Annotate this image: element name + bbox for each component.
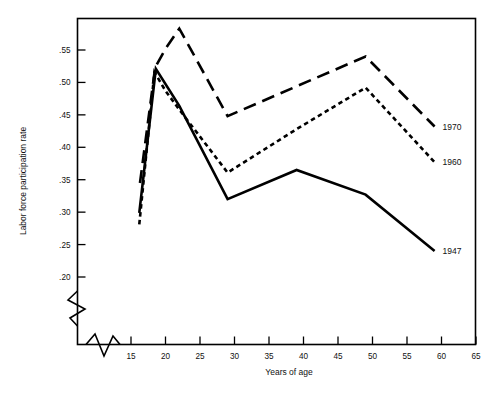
y-tick-label: .55 [59, 46, 71, 55]
y-tick-label: .40 [59, 143, 71, 152]
x-tick-label: 60 [437, 352, 447, 361]
series-label-1947: 1947 [443, 246, 462, 256]
y-axis-title: Labor force participation rate [18, 127, 28, 235]
x-tick-label: 15 [126, 352, 136, 361]
chart-figure: .20.25.30.35.40.45.50.55 152025303540455… [0, 0, 501, 399]
plot-frame [78, 19, 476, 345]
y-tick-label: .25 [59, 241, 71, 250]
plot-border [78, 19, 476, 345]
x-tick-label: 30 [230, 352, 240, 361]
y-tick-label: .50 [59, 78, 71, 87]
x-tick-label: 55 [402, 352, 412, 361]
y-tick-label: .30 [59, 208, 71, 217]
x-tick-label: 35 [264, 352, 274, 361]
line-chart: .20.25.30.35.40.45.50.55 152025303540455… [0, 0, 501, 399]
y-tick-label: .20 [59, 273, 71, 282]
x-tick-label: 45 [333, 352, 343, 361]
x-tick-label: 40 [299, 352, 309, 361]
x-axis-title: Years of age [265, 367, 313, 377]
y-tick-label: .35 [59, 176, 71, 185]
series-label-1960: 1960 [443, 157, 462, 167]
x-tick-label: 25 [195, 352, 205, 361]
x-tick-label: 20 [161, 352, 171, 361]
x-tick-label: 65 [471, 352, 481, 361]
y-tick-label: .45 [59, 111, 71, 120]
x-tick-label: 50 [368, 352, 378, 361]
series-label-1970: 1970 [443, 122, 462, 132]
